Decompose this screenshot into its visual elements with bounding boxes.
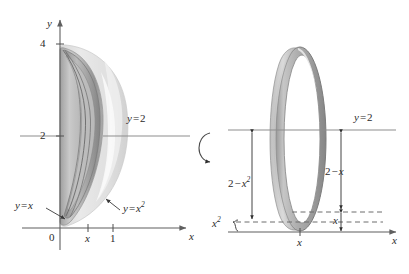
label-y-equals-2-right: y=2 — [354, 112, 373, 123]
label-val: x — [28, 199, 33, 211]
label-segment-x: x — [333, 215, 338, 226]
label-exponent: 2 — [141, 200, 145, 209]
x-axis-label-right: x — [392, 235, 397, 246]
calculus-figure-solid-of-revolution — [0, 0, 409, 274]
y-tick-label-2: 2 — [40, 130, 46, 141]
origin-label: 0 — [49, 232, 55, 243]
x-tick-label-x-right: x — [297, 237, 302, 248]
label-brace-x-squared: x2 — [212, 218, 221, 229]
label-outer-radius: 2−x2 — [228, 178, 250, 189]
x-axis-label: x — [189, 231, 194, 242]
label-y-equals-x-squared: y=x2 — [123, 203, 145, 214]
label-op: = — [20, 199, 28, 211]
label-op: = — [128, 202, 136, 214]
label-a: 2 — [325, 165, 331, 177]
y-tick-label-4: 4 — [40, 38, 46, 49]
label-op: = — [132, 112, 140, 124]
label-op: − — [234, 177, 242, 189]
label-val: 2 — [367, 111, 373, 123]
x-tick-label-x: x — [85, 233, 90, 244]
label-op: = — [359, 111, 367, 123]
label-inner-radius: 2−x — [325, 166, 344, 177]
label-exponent: 2 — [217, 215, 221, 224]
x-tick-label-1: 1 — [110, 233, 116, 244]
rotation-arrow-icon — [199, 133, 210, 162]
leader-arrow-y-equals-x-squared — [106, 199, 120, 210]
label-a: 2 — [228, 177, 234, 189]
label-op: − — [331, 165, 339, 177]
label-b: x — [339, 165, 344, 177]
y-axis-label: y — [47, 18, 52, 29]
left-panel-solid-view — [20, 20, 190, 250]
label-val: 2 — [140, 112, 146, 124]
label-exponent: 2 — [247, 175, 251, 184]
label-y-equals-x: y=x — [15, 200, 33, 211]
right-panel-washer-view — [228, 47, 396, 236]
label-y-equals-2-left: y=2 — [127, 113, 146, 124]
